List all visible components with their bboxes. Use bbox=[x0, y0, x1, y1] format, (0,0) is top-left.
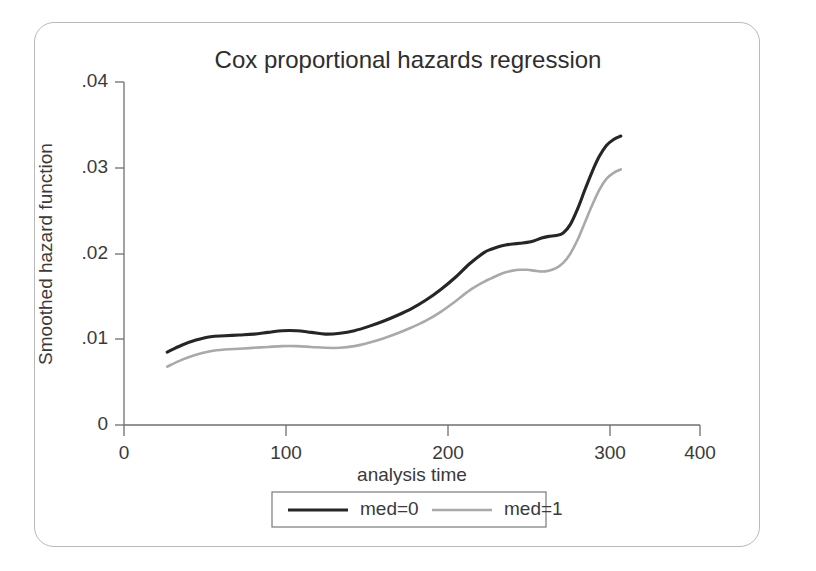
x-tick-label: 100 bbox=[270, 442, 302, 463]
figure-page: Cox proportional hazards regression .04 … bbox=[0, 0, 816, 571]
chart-legend: med=0 med=1 bbox=[272, 492, 563, 527]
legend-label-med1: med=1 bbox=[504, 498, 563, 519]
y-tick-label: .04 bbox=[82, 70, 109, 91]
x-tick-label: 300 bbox=[594, 442, 626, 463]
y-axis-title: Smoothed hazard function bbox=[35, 143, 56, 365]
hazard-chart: Cox proportional hazards regression .04 … bbox=[0, 0, 816, 571]
y-tick-label: .02 bbox=[82, 242, 108, 263]
legend-label-med0: med=0 bbox=[360, 498, 419, 519]
y-tick-label: .01 bbox=[82, 327, 108, 348]
y-tick-label: .03 bbox=[82, 156, 108, 177]
y-tick-label: 0 bbox=[97, 413, 108, 434]
y-axis-ticks: .04 .03 .02 .01 0 bbox=[82, 70, 124, 434]
x-tick-label: 400 bbox=[684, 442, 716, 463]
x-axis-title: analysis time bbox=[357, 464, 467, 485]
x-axis-ticks: 0 100 200 300 400 bbox=[119, 425, 716, 463]
x-tick-label: 200 bbox=[432, 442, 464, 463]
x-tick-label: 0 bbox=[119, 442, 130, 463]
chart-title: Cox proportional hazards regression bbox=[215, 46, 602, 73]
series-line-med1 bbox=[167, 169, 621, 366]
series-line-med0 bbox=[167, 136, 621, 352]
